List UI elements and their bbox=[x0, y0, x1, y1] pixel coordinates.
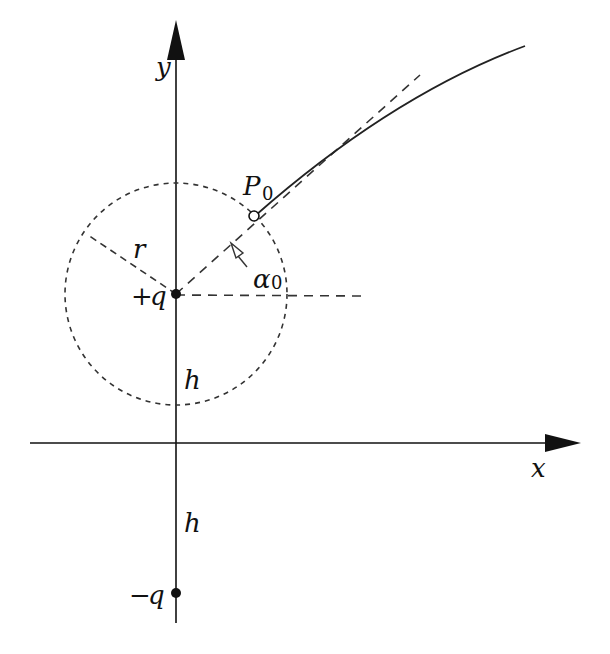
horizontal-reference-line bbox=[176, 295, 362, 296]
svg-text:P: P bbox=[242, 171, 261, 201]
svg-text:α: α bbox=[253, 264, 271, 294]
point-p0-marker bbox=[249, 211, 259, 221]
diagram-canvas: y x r + q − q h h P 0 α 0 bbox=[0, 0, 610, 654]
svg-text:0: 0 bbox=[271, 272, 282, 293]
x-axis-arrowhead-icon bbox=[545, 434, 581, 452]
y-axis bbox=[167, 20, 185, 623]
trajectory-curve bbox=[256, 46, 525, 215]
positive-charge-label: + q bbox=[131, 281, 167, 311]
negative-charge-label: − q bbox=[129, 580, 165, 610]
positive-charge-dot bbox=[171, 289, 181, 299]
negative-charge-dot bbox=[171, 588, 181, 598]
x-axis bbox=[30, 434, 581, 452]
point-p0-label: P 0 bbox=[242, 171, 273, 204]
svg-text:q: q bbox=[148, 580, 165, 610]
initial-direction-line bbox=[176, 75, 420, 294]
y-axis-label: y bbox=[155, 52, 171, 82]
radius-label: r bbox=[133, 234, 147, 264]
lower-h-label: h bbox=[184, 508, 201, 538]
svg-text:0: 0 bbox=[262, 183, 273, 204]
upper-h-label: h bbox=[184, 365, 201, 395]
angle-alpha0-label: α 0 bbox=[253, 264, 282, 294]
svg-text:q: q bbox=[150, 281, 167, 311]
x-axis-label: x bbox=[531, 453, 546, 483]
angle-arrow-icon bbox=[231, 243, 247, 267]
